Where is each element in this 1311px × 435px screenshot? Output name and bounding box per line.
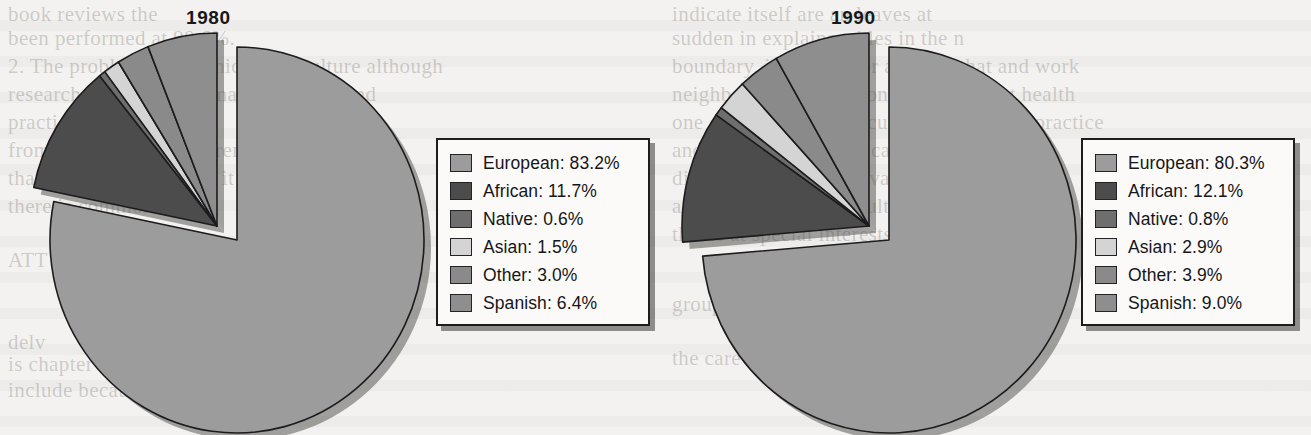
legend-swatch-icon [450,182,472,200]
legend-item: Other: 3.0% [450,261,632,289]
legend-swatch-icon [450,238,472,256]
legend-item-label: Spanish: 9.0% [1128,293,1242,314]
legend-item: Spanish: 9.0% [1095,289,1277,317]
legend-item-label: African: 12.1% [1128,181,1243,202]
legend-item-label: Spanish: 6.4% [483,293,597,314]
legend-item: African: 12.1% [1095,177,1277,205]
legend-swatch-icon [1095,182,1117,200]
legend-item-label: Asian: 1.5% [483,237,578,258]
legend-swatch-icon [450,294,472,312]
legend-item-label: Native: 0.6% [483,209,583,230]
legend-item: Spanish: 6.4% [450,289,632,317]
legend-item: European: 83.2% [450,149,632,177]
legend-item: Asian: 1.5% [450,233,632,261]
legend-item: Native: 0.6% [450,205,632,233]
legend-swatch-icon [1095,210,1117,228]
page-title: 1990 [831,7,876,29]
legend-item: European: 80.3% [1095,149,1277,177]
legend-item-label: Asian: 2.9% [1128,237,1223,258]
legend-item-label: African: 11.7% [483,181,597,202]
legend-swatch-icon [450,266,472,284]
legend-swatch-icon [1095,266,1117,284]
legend-item-label: Native: 0.8% [1128,209,1228,230]
legend-swatch-icon [450,210,472,228]
chart-panel-1990: 1990 European: 80.3%African: 12.1%Native… [656,0,1311,427]
legend-item: African: 11.7% [450,177,632,205]
page-title: 1980 [186,7,231,29]
legend-item: Asian: 2.9% [1095,233,1277,261]
legend-swatch-icon [1095,154,1117,172]
legend-item-label: European: 80.3% [1128,153,1265,174]
legend-item-label: European: 83.2% [483,153,620,174]
pie-svg [674,35,1084,435]
legend-swatch-icon [1095,294,1117,312]
pie-chart-1990 [674,35,1084,435]
legend-item-label: Other: 3.9% [1128,265,1222,286]
chart-panel-1980: 1980 European: 83.2%African: 11.7%Native… [0,0,656,427]
legend-1980: European: 83.2%African: 11.7%Native: 0.6… [436,138,650,326]
legend-1990: European: 80.3%African: 12.1%Native: 0.8… [1081,138,1295,326]
legend-swatch-icon [1095,238,1117,256]
legend-swatch-icon [450,154,472,172]
legend-item: Other: 3.9% [1095,261,1277,289]
legend-item-label: Other: 3.0% [483,265,577,286]
legend-item: Native: 0.8% [1095,205,1277,233]
pie-svg [22,35,432,435]
pie-chart-1980 [22,35,432,435]
